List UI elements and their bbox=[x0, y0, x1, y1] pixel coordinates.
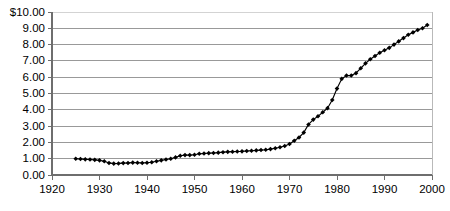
y-tick-label-5: 5.00 bbox=[23, 87, 45, 99]
data-point-1925 bbox=[73, 156, 78, 161]
y-tick-label-1: 1.00 bbox=[23, 152, 45, 164]
data-point-1957 bbox=[225, 150, 230, 155]
y-tick-label-0: 0.00 bbox=[23, 169, 45, 181]
data-point-1963 bbox=[254, 148, 259, 153]
data-point-1951 bbox=[197, 152, 202, 157]
data-point-1958 bbox=[230, 149, 235, 154]
data-point-1934 bbox=[116, 161, 121, 166]
data-point-1959 bbox=[235, 149, 240, 154]
data-point-1927 bbox=[83, 157, 88, 162]
x-axis-ticks: 192019301940195019601970198019902000 bbox=[39, 175, 445, 195]
y-tick-label-9: 9.00 bbox=[23, 22, 45, 34]
line-chart: $10.009.008.007.006.005.004.003.002.001.… bbox=[0, 0, 450, 211]
data-point-1964 bbox=[259, 148, 264, 153]
x-tick-label-2000: 2000 bbox=[419, 183, 445, 195]
data-point-1932 bbox=[107, 161, 112, 166]
data-point-1935 bbox=[121, 161, 126, 166]
data-point-1940 bbox=[145, 160, 150, 165]
data-point-1967 bbox=[273, 146, 278, 151]
data-point-1948 bbox=[183, 153, 188, 158]
data-point-1936 bbox=[126, 161, 131, 166]
y-tick-label-4: 4.00 bbox=[23, 103, 45, 115]
y-tick-label-10: $10.00 bbox=[10, 6, 45, 18]
data-point-1969 bbox=[282, 144, 287, 149]
data-point-1979 bbox=[330, 98, 335, 103]
x-tick-label-1940: 1940 bbox=[134, 183, 160, 195]
data-point-1962 bbox=[249, 148, 254, 153]
data-point-1966 bbox=[268, 147, 273, 152]
x-tick-label-1960: 1960 bbox=[229, 183, 255, 195]
data-point-1960 bbox=[240, 149, 245, 154]
x-tick-label-1980: 1980 bbox=[324, 183, 350, 195]
chart-container: $10.009.008.007.006.005.004.003.002.001.… bbox=[0, 0, 450, 211]
data-point-1950 bbox=[192, 152, 197, 157]
data-point-1933 bbox=[111, 161, 116, 166]
data-point-1947 bbox=[178, 153, 183, 158]
x-tick-label-1970: 1970 bbox=[277, 183, 303, 195]
data-point-1926 bbox=[78, 157, 83, 162]
data-point-1938 bbox=[135, 160, 140, 165]
data-point-1956 bbox=[221, 150, 226, 155]
y-tick-label-3: 3.00 bbox=[23, 120, 45, 132]
data-point-1941 bbox=[149, 160, 154, 165]
data-point-1929 bbox=[92, 158, 97, 163]
data-point-1968 bbox=[278, 145, 283, 150]
data-point-1949 bbox=[187, 153, 192, 158]
data-point-1952 bbox=[202, 151, 207, 156]
data-point-1931 bbox=[102, 159, 107, 164]
y-tick-label-2: 2.00 bbox=[23, 136, 45, 148]
data-point-1965 bbox=[263, 147, 268, 152]
series-line-path bbox=[76, 25, 428, 164]
data-point-1954 bbox=[211, 151, 216, 156]
data-point-1961 bbox=[244, 149, 249, 154]
x-tick-label-1930: 1930 bbox=[87, 183, 113, 195]
data-point-1939 bbox=[140, 161, 145, 166]
x-tick-label-1990: 1990 bbox=[372, 183, 398, 195]
x-tick-label-1920: 1920 bbox=[39, 183, 65, 195]
y-tick-label-6: 6.00 bbox=[23, 71, 45, 83]
y-tick-label-8: 8.00 bbox=[23, 38, 45, 50]
data-point-1937 bbox=[130, 160, 135, 165]
data-point-1942 bbox=[154, 159, 159, 164]
data-point-1980 bbox=[335, 86, 340, 91]
data-point-1953 bbox=[206, 151, 211, 156]
data-point-1990 bbox=[382, 48, 387, 53]
data-point-1955 bbox=[216, 150, 221, 155]
x-tick-label-1950: 1950 bbox=[182, 183, 208, 195]
data-point-1944 bbox=[164, 157, 169, 162]
data-point-1945 bbox=[168, 156, 173, 161]
data-point-1928 bbox=[88, 157, 93, 162]
y-axis-ticks: $10.009.008.007.006.005.004.003.002.001.… bbox=[10, 6, 52, 181]
data-point-1996 bbox=[411, 30, 416, 35]
y-tick-label-7: 7.00 bbox=[23, 54, 45, 66]
